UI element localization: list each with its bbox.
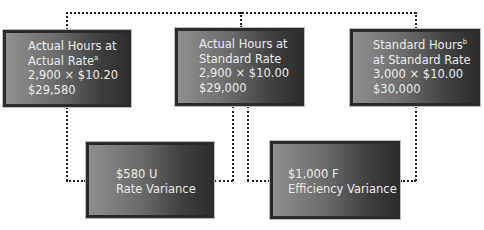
box-line: 2,900 × $10.20 bbox=[28, 68, 118, 82]
variance-label: Rate Variance bbox=[116, 182, 196, 197]
box-line: at Standard Rate bbox=[373, 53, 471, 67]
connector-box2-down-right bbox=[247, 106, 249, 181]
connector-box1-to-rate bbox=[66, 180, 86, 182]
connector-box3-to-efficiency bbox=[400, 180, 416, 182]
box-line: 2,900 × $10.00 bbox=[199, 66, 289, 80]
connector-box2-top bbox=[240, 12, 242, 28]
box-line: $29,000 bbox=[199, 81, 247, 95]
connector-box3-down bbox=[415, 106, 417, 181]
connector-box3-top bbox=[415, 12, 417, 29]
box-actual-hours-standard-rate: Actual Hours at Standard Rate 2,900 × $1… bbox=[175, 28, 304, 106]
box-actual-hours-actual-rate: Actual Hours at Actual Ratea 2,900 × $10… bbox=[3, 30, 131, 107]
footnote-marker: a bbox=[94, 54, 98, 62]
box-line: 3,000 × $10.00 bbox=[373, 67, 463, 81]
variance-amount: $580 U bbox=[116, 167, 196, 182]
box-line: $30,000 bbox=[373, 82, 421, 96]
connector-box2-down-left bbox=[232, 106, 234, 181]
connector-box1-down bbox=[66, 107, 68, 181]
box-line: Actual Rate bbox=[28, 54, 94, 68]
box-line: Actual Hours at bbox=[199, 37, 288, 51]
variance-label: Efficiency Variance bbox=[288, 182, 397, 197]
box-rate-variance: $580 U Rate Variance bbox=[86, 142, 214, 218]
connector-box1-top bbox=[66, 12, 68, 30]
box-line: Standard Hours bbox=[373, 38, 463, 52]
connector-box2-to-rate bbox=[214, 180, 233, 182]
box-standard-hours-standard-rate: Standard Hoursb at Standard Rate 3,000 ×… bbox=[350, 29, 480, 106]
box-line: Actual Hours at bbox=[28, 39, 117, 53]
footnote-marker: b bbox=[463, 38, 467, 46]
box-line: $29,580 bbox=[28, 83, 76, 97]
connector-box2-to-efficiency bbox=[247, 180, 270, 182]
variance-amount: $1,000 F bbox=[288, 167, 397, 182]
box-line: Standard Rate bbox=[199, 52, 281, 66]
box-efficiency-variance: $1,000 F Efficiency Variance bbox=[270, 141, 400, 219]
